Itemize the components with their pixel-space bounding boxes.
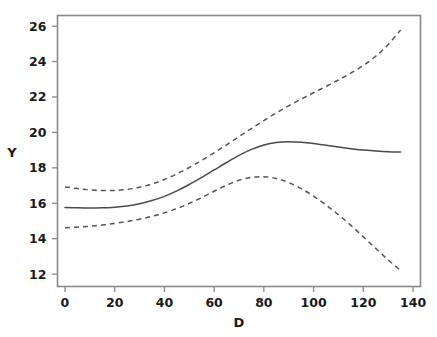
y-tick-label: 12 [29,267,46,282]
y-tick-label: 16 [29,196,47,211]
series-upper-confidence-band [65,30,401,191]
x-tick-label: 40 [156,295,174,310]
y-axis-title: Y [6,145,17,160]
data-series-group [65,30,401,271]
chart-figure: 020406080100120140 1214161820222426 D Y [0,0,437,337]
y-tick-label: 18 [29,160,46,175]
x-tick-label: 0 [61,295,70,310]
x-tick-label: 120 [350,295,376,310]
y-tick-label: 26 [29,19,47,34]
x-tick-label: 140 [400,295,426,310]
series-fitted-line [65,142,401,208]
x-tick-label: 80 [255,295,273,310]
x-axis-title: D [234,315,245,330]
y-axis-ticks [52,26,58,274]
x-axis-tick-labels: 020406080100120140 [61,295,427,310]
y-tick-label: 14 [29,231,47,246]
series-lower-confidence-band [65,177,401,271]
x-tick-label: 60 [205,295,223,310]
x-tick-label: 20 [106,295,124,310]
x-tick-label: 100 [301,295,327,310]
x-axis-ticks [65,287,413,293]
y-axis-tick-labels: 1214161820222426 [29,19,47,282]
y-tick-label: 20 [29,125,47,140]
y-tick-label: 24 [29,54,47,69]
chart-svg: 020406080100120140 1214161820222426 D Y [0,0,437,337]
y-tick-label: 22 [29,89,46,104]
